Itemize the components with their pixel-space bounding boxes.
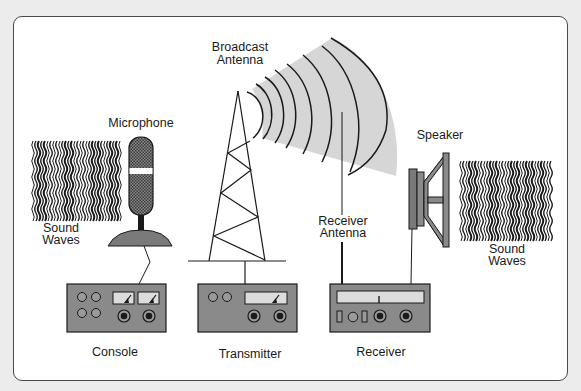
microphone-label: Microphone xyxy=(104,117,178,130)
console-label: Console xyxy=(85,346,145,359)
speaker-cable xyxy=(411,228,412,284)
transmitter-device xyxy=(198,284,297,332)
sound-waves-left-label: Sound Waves xyxy=(36,222,86,246)
receiver-device xyxy=(330,284,430,332)
receiver-antenna-label-line2: Antenna xyxy=(316,227,370,239)
broadcast-antenna-label-line2: Antenna xyxy=(205,54,275,67)
transmitter-label: Transmitter xyxy=(210,348,290,361)
sound-waves-left-label-line2: Waves xyxy=(36,234,86,246)
broadcast-antenna-label: Broadcast Antenna xyxy=(205,41,275,66)
receiver-antenna-label: Receiver Antenna xyxy=(316,215,370,239)
sound-waves-right-label-line2: Waves xyxy=(482,255,532,267)
microphone-cable xyxy=(138,246,150,286)
console-device xyxy=(67,284,166,332)
transmitter-meter-icon xyxy=(245,292,287,304)
speaker-icon xyxy=(409,153,449,247)
sound-waves-right-icon xyxy=(460,161,553,241)
receiver-tuning-dial-icon xyxy=(337,291,424,303)
sound-waves-right-label: Sound Waves xyxy=(482,243,532,267)
diagram-stage: Broadcast Antenna Microphone Sound Waves… xyxy=(0,0,581,391)
sound-waves-left-icon xyxy=(32,141,122,221)
diagram-artwork xyxy=(0,0,581,391)
broadcast-antenna-label-line1: Broadcast xyxy=(205,41,275,54)
speaker-label: Speaker xyxy=(410,129,470,142)
receiver-label: Receiver xyxy=(348,346,414,359)
